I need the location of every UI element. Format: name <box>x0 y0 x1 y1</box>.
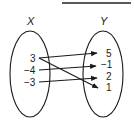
range-element: 5 <box>106 48 112 59</box>
domain-element: −4 <box>24 65 36 76</box>
range-element: 1 <box>106 82 112 93</box>
arrow-neg4-to-neg1 <box>39 66 96 70</box>
range-oval <box>83 31 123 117</box>
domain-label: X <box>26 15 35 27</box>
domain-element: −3 <box>24 77 36 88</box>
arrow-3-to-1 <box>39 58 98 88</box>
range-element: −1 <box>101 59 113 70</box>
range-label: Y <box>100 15 108 27</box>
mapping-diagram: X Y 3 −4 −3 5 −1 2 1 <box>0 0 135 129</box>
domain-element: 3 <box>30 53 36 64</box>
arrow-neg3-to-2 <box>39 78 97 82</box>
range-element: 2 <box>106 71 112 82</box>
